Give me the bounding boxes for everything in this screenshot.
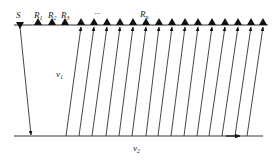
receiver-label-r2: R2 bbox=[47, 10, 57, 21]
receiver-marker-icon bbox=[259, 18, 267, 25]
ellipsis-label: ··· bbox=[94, 9, 100, 18]
receiver-marker-icon bbox=[155, 18, 163, 25]
upgoing-ray bbox=[247, 27, 263, 136]
upgoing-ray bbox=[222, 27, 238, 136]
upgoing-ray bbox=[106, 27, 120, 136]
upgoing-ray bbox=[184, 27, 198, 136]
velocity-label-v1: v1 bbox=[56, 69, 63, 80]
upgoing-ray bbox=[119, 27, 133, 136]
receiver-marker-icon bbox=[221, 18, 229, 25]
receiver-marker-icon bbox=[77, 18, 85, 25]
upgoing-ray bbox=[158, 27, 172, 136]
upgoing-ray bbox=[197, 27, 212, 136]
receiver-marker-icon bbox=[234, 18, 242, 25]
upgoing-ray bbox=[92, 27, 107, 136]
receiver-marker-icon bbox=[181, 18, 189, 25]
receiver-label-rn: Rn bbox=[139, 9, 149, 20]
upgoing-rays bbox=[66, 27, 263, 136]
receiver-marker-icon bbox=[208, 18, 216, 25]
receiver-marker-icon bbox=[129, 18, 137, 25]
upgoing-ray bbox=[79, 27, 94, 136]
velocity-label-v2: v2 bbox=[133, 143, 140, 154]
source-label: S bbox=[16, 10, 21, 20]
upgoing-ray bbox=[146, 27, 159, 136]
refraction-diagram: S R1 R2 R3 ··· Rn v1 v2 bbox=[0, 0, 276, 160]
receiver-marker-icon bbox=[103, 18, 111, 25]
upgoing-ray bbox=[66, 27, 81, 136]
receiver-marker-icon bbox=[194, 18, 202, 25]
receiver-label-r1: R1 bbox=[33, 10, 43, 21]
receiver-marker-icon bbox=[168, 18, 176, 25]
upgoing-ray bbox=[235, 27, 251, 136]
receiver-marker-icon bbox=[90, 18, 98, 25]
upgoing-ray bbox=[171, 27, 185, 136]
downgoing-ray bbox=[20, 27, 31, 135]
upgoing-ray bbox=[209, 27, 225, 136]
receiver-marker-icon bbox=[247, 18, 255, 25]
upgoing-ray bbox=[132, 27, 146, 136]
receiver-label-r3: R3 bbox=[60, 10, 70, 21]
receiver-marker-icon bbox=[116, 18, 124, 25]
